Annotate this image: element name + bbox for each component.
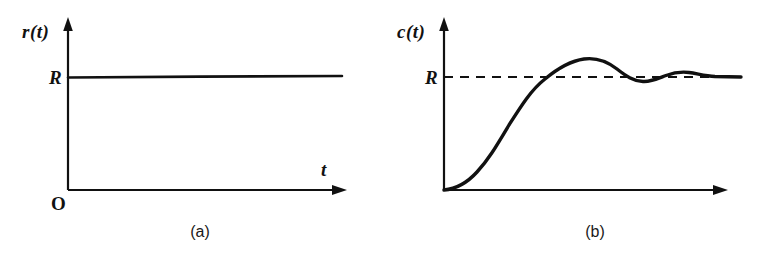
reference-value-label-b: R (425, 68, 438, 87)
y-axis-label-b: c(t) (397, 22, 425, 41)
caption-b: (b) (555, 224, 635, 240)
x-axis-label-a: t (321, 160, 326, 179)
y-axis-label-a: r(t) (22, 22, 49, 41)
reference-input-curve-a (68, 76, 342, 78)
origin-label-a: O (51, 194, 66, 213)
x-axis-arrow-b (713, 185, 728, 195)
x-axis-arrow-a (332, 185, 347, 195)
panel-b-plot (385, 0, 769, 262)
panel-a: r(t) R t O (a) (0, 0, 385, 262)
step-response-curve-b (444, 59, 741, 190)
caption-a: (a) (160, 224, 240, 240)
reference-value-label-a: R (49, 68, 62, 87)
figure-root: r(t) R t O (a) c(t) R (b) (0, 0, 769, 262)
y-axis-arrow-a (63, 17, 73, 31)
y-axis-arrow-b (439, 17, 449, 31)
panel-b: c(t) R (b) (385, 0, 769, 262)
